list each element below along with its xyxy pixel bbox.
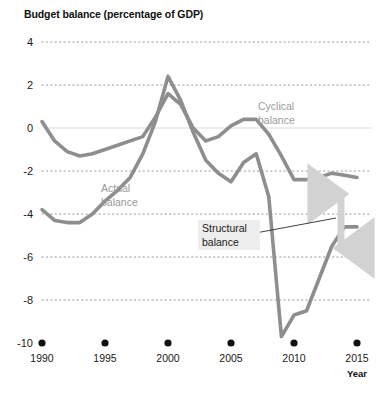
actual-balance-label-line1: Actual [101, 182, 130, 194]
xtick-dot [101, 339, 108, 346]
xtick-dot [353, 339, 360, 346]
structural-balance-callout: Structural balance [198, 218, 336, 250]
ytick-label: 4 [27, 36, 33, 48]
ytick-label: -10 [17, 337, 33, 349]
actual-balance-label: Actual balance [101, 182, 138, 208]
xtick-label: 2000 [156, 352, 180, 364]
gridlines [42, 42, 372, 300]
cyclical-balance-label-line1: Cyclical [258, 100, 294, 112]
xtick-label: 2015 [345, 352, 369, 364]
ytick-label: 0 [27, 122, 33, 134]
xtick-label: 2005 [219, 352, 243, 364]
xtick-label: 1990 [30, 352, 54, 364]
series-line-actual-balance [42, 76, 357, 336]
xtick-label: 2010 [282, 352, 306, 364]
xtick-dot [227, 339, 234, 346]
plot-area: 4 2 0 -2 -4 -6 -8 -10 1990 1995 2000 200… [0, 0, 382, 393]
series-lines [42, 76, 357, 336]
ytick-label: -4 [23, 208, 33, 220]
ytick-label: -2 [23, 165, 33, 177]
budget-balance-chart: Budget balance (percentage of GDP) 4 2 0 [0, 0, 382, 393]
x-axis-labels: 1990 1995 2000 2005 2010 2015 Year [30, 352, 369, 379]
xtick-dot [38, 339, 45, 346]
xtick-label: 1995 [93, 352, 117, 364]
xtick-dot [290, 339, 297, 346]
x-axis-ticks [38, 339, 360, 346]
y-axis-labels: 4 2 0 -2 -4 -6 -8 -10 [17, 36, 33, 349]
cyclical-balance-label-line2: balance [258, 114, 295, 126]
xtick-dot [164, 339, 171, 346]
ytick-label: -6 [23, 251, 33, 263]
ytick-label: 2 [27, 79, 33, 91]
structural-balance-line1: Structural [202, 222, 247, 234]
x-axis-title: Year [347, 368, 367, 379]
series-line-cyclical-balance [42, 94, 357, 180]
structural-balance-line2: balance [202, 236, 239, 248]
ytick-label: -8 [23, 294, 33, 306]
actual-balance-label-line2: balance [101, 196, 138, 208]
cyclical-balance-label: Cyclical balance [258, 100, 295, 126]
